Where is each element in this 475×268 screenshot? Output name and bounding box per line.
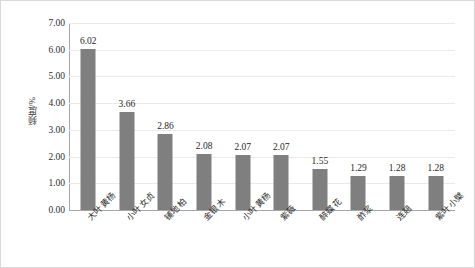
bar-slot: 1.29 — [339, 23, 378, 210]
bar-value-label: 2.07 — [234, 142, 251, 152]
bar-slot: 2.86 — [146, 23, 185, 210]
bar-value-label: 1.29 — [350, 163, 367, 173]
bar[interactable] — [274, 155, 289, 210]
y-tick-label: 3.00 — [31, 125, 65, 135]
bar[interactable] — [81, 49, 96, 210]
bar-chart: 频度/% 0.001.002.003.004.005.006.007.00 6.… — [0, 0, 475, 268]
x-label-slot: 紫薇 — [262, 210, 301, 268]
y-tick-label: 1.00 — [31, 178, 65, 188]
bar-slot: 1.28 — [416, 23, 455, 210]
bar-slot: 2.07 — [223, 23, 262, 210]
x-label-slot: 大叶黄杨 — [69, 210, 108, 268]
bar-slot: 6.02 — [69, 23, 108, 210]
bar-value-label: 2.07 — [273, 142, 290, 152]
bar[interactable] — [235, 155, 250, 210]
x-label-slot: 小叶黄杨 — [223, 210, 262, 268]
bar-slot: 1.55 — [301, 23, 340, 210]
x-axis-tick-labels: 大叶黄杨小叶女贞铺地柏金银木小叶黄杨紫薇醉蝶花酢浆连翘紫叶小檗 — [69, 210, 455, 268]
bar-value-label: 2.08 — [196, 141, 213, 151]
bar-value-label: 1.28 — [427, 163, 444, 173]
y-tick-label: 2.00 — [31, 152, 65, 162]
plot-area: 6.023.662.862.082.072.071.551.291.281.28 — [69, 23, 455, 210]
x-label-slot: 连翘 — [378, 210, 417, 268]
y-axis-tick-labels: 0.001.002.003.004.005.006.007.00 — [25, 23, 65, 210]
y-tick-label: 6.00 — [31, 45, 65, 55]
x-label-slot: 小叶女贞 — [108, 210, 147, 268]
bar-slot: 3.66 — [108, 23, 147, 210]
bar[interactable] — [158, 134, 173, 210]
bar-value-label: 1.55 — [312, 156, 329, 166]
y-tick-label: 4.00 — [31, 98, 65, 108]
x-label-slot: 酢浆 — [339, 210, 378, 268]
bar-slot: 2.08 — [185, 23, 224, 210]
bar-slot: 2.07 — [262, 23, 301, 210]
x-label-slot: 紫叶小檗 — [416, 210, 455, 268]
x-label-slot: 铺地柏 — [146, 210, 185, 268]
x-label-slot: 醉蝶花 — [301, 210, 340, 268]
y-tick-label: 5.00 — [31, 71, 65, 81]
bar-value-label: 1.28 — [389, 163, 406, 173]
y-tick-label: 7.00 — [31, 18, 65, 28]
bar-value-label: 6.02 — [80, 36, 97, 46]
bar-slot: 1.28 — [378, 23, 417, 210]
bar-value-label: 2.86 — [157, 121, 174, 131]
x-label-slot: 金银木 — [185, 210, 224, 268]
bar[interactable] — [119, 112, 134, 210]
y-tick-label: 0.00 — [31, 205, 65, 215]
bar-value-label: 3.66 — [119, 99, 136, 109]
bar[interactable] — [197, 154, 212, 210]
